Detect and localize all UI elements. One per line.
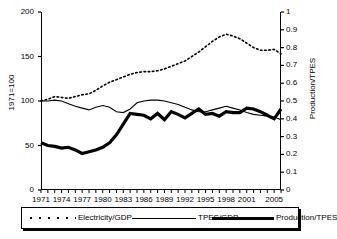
series-lines xyxy=(41,34,281,153)
series-line-production-tpes xyxy=(41,108,281,153)
thin-line-swatch-icon xyxy=(132,218,196,219)
thick-line-swatch-icon xyxy=(212,217,274,220)
legend-item-production-tpes: Production/TPES xyxy=(212,208,337,228)
legend-items: Electricity/GDP TPES/GDP Production/TPES xyxy=(22,208,298,228)
legend-item-electricity-gdp: Electricity/GDP xyxy=(30,208,132,228)
dotted-line-swatch-icon xyxy=(30,217,76,219)
legend-label-production-tpes: Production/TPES xyxy=(276,214,337,222)
series-line-electricity-gdp xyxy=(41,34,281,101)
tick-marks xyxy=(38,12,284,193)
legend-label-electricity-gdp: Electricity/GDP xyxy=(78,214,132,222)
chart-legend: Electricity/GDP TPES/GDP Production/TPES xyxy=(21,207,299,229)
